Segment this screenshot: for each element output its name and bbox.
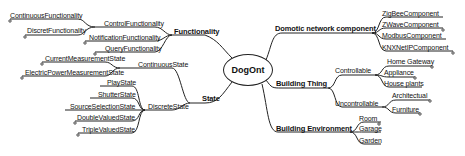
node-electric-power-measurement-state[interactable]: ElectricPowerMeasurementState — [25, 69, 124, 77]
mind-map-canvas: DogOnt Functionality ControlFunctionalit… — [0, 0, 465, 156]
root-label: DogOnt — [232, 65, 265, 75]
node-modbus-component[interactable]: ModbusComponent — [382, 32, 442, 40]
node-domotic-network-component[interactable]: Domotic network component — [275, 25, 376, 33]
node-discret-functionality[interactable]: DiscretFunctionality — [27, 27, 86, 35]
node-appliance[interactable]: Appliance — [384, 69, 414, 77]
node-continuous-state[interactable]: ContinuousState — [138, 61, 188, 69]
node-building-thing[interactable]: Building Thing — [276, 80, 327, 88]
node-building-environment[interactable]: Building Environment — [276, 125, 352, 133]
node-functionality[interactable]: Functionality — [174, 28, 219, 36]
node-home-gateway[interactable]: Home Gateway — [387, 58, 434, 66]
node-current-measurement-state[interactable]: CurrentMeasurementState — [45, 55, 125, 63]
node-shutter-state[interactable]: ShutterState — [98, 91, 136, 99]
node-source-selection-state[interactable]: SourceSelectionState — [70, 103, 135, 111]
node-notification-functionality[interactable]: NotificationFunctionality — [89, 34, 160, 42]
node-garage[interactable]: Garage — [359, 125, 382, 133]
node-continuous-functionality[interactable]: ContinuousFunctionality — [10, 12, 82, 20]
node-double-valued-state[interactable]: DoubleValuedState — [77, 114, 135, 122]
node-zigbee-component[interactable]: ZigBeeComponent — [382, 10, 439, 18]
node-furniture[interactable]: Furniture — [392, 106, 419, 114]
node-triple-valued-state[interactable]: TripleValuedState — [82, 126, 135, 134]
node-discrete-state[interactable]: DiscreteState — [148, 103, 189, 111]
node-state[interactable]: State — [202, 95, 220, 103]
node-house-plants[interactable]: House plants — [384, 80, 424, 88]
node-room[interactable]: Room — [359, 115, 377, 123]
root-node[interactable]: DogOnt — [223, 54, 273, 86]
node-controllable[interactable]: Controllable — [335, 67, 371, 75]
node-play-state[interactable]: PlayState — [107, 79, 136, 87]
node-uncontrollable[interactable]: Uncontrollable — [335, 100, 378, 108]
node-control-functionality[interactable]: ControlFunctionality — [104, 20, 164, 28]
node-garden[interactable]: Garden — [359, 137, 382, 145]
node-query-functionality[interactable]: QueryFunctionality — [105, 45, 162, 53]
node-architectual[interactable]: Architectual — [392, 92, 427, 100]
node-zwave-component[interactable]: ZWaveComponent — [382, 21, 439, 29]
node-knxnetip-component[interactable]: KNXNetIPComponent — [382, 44, 448, 52]
